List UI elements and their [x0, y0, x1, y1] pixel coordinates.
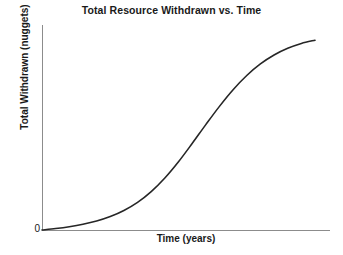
- resource-withdrawn-curve: [42, 40, 315, 230]
- chart-figure: Total Resource Withdrawn vs. Time Total …: [0, 0, 343, 255]
- plot-area: [0, 0, 343, 255]
